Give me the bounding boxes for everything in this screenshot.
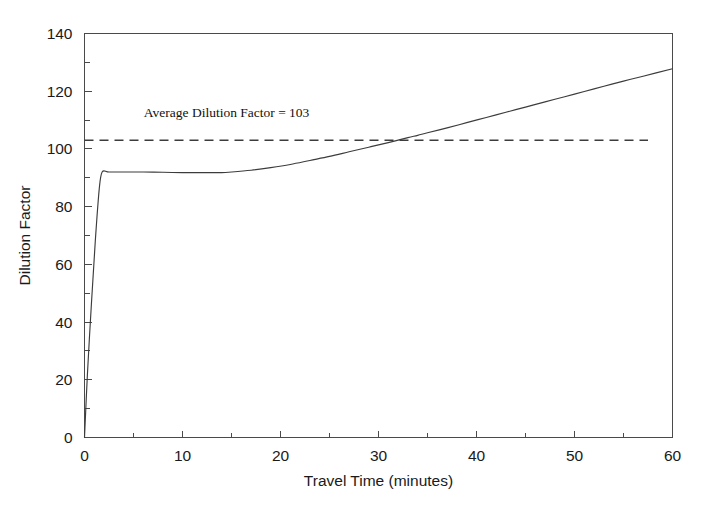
y-tick-label: 120 <box>47 83 73 100</box>
x-tick-label: 30 <box>370 447 388 464</box>
x-tick-label: 20 <box>272 447 290 464</box>
y-tick-label: 0 <box>64 429 73 446</box>
y-tick-label: 60 <box>55 256 73 273</box>
x-tick-label: 0 <box>80 447 89 464</box>
x-axis-title: Travel Time (minutes) <box>304 472 453 489</box>
x-tick-label: 60 <box>664 447 682 464</box>
y-tick-label: 20 <box>55 371 73 388</box>
x-tick-label: 10 <box>174 447 192 464</box>
y-tick-label: 40 <box>55 314 73 331</box>
y-tick-label: 80 <box>55 198 73 215</box>
y-tick-label: 140 <box>47 25 73 42</box>
y-axis-title: Dilution Factor <box>16 186 33 286</box>
x-tick-label: 40 <box>468 447 486 464</box>
chart-figure: 0102030405060 020406080100120140 Average… <box>0 0 707 508</box>
average-dilution-annotation: Average Dilution Factor = 103 <box>144 105 310 120</box>
dilution-factor-line-chart: 0102030405060 020406080100120140 Average… <box>0 0 707 508</box>
chart-annotations: Average Dilution Factor = 103 <box>144 105 310 120</box>
y-tick-label: 100 <box>47 140 73 157</box>
x-tick-label: 50 <box>566 447 584 464</box>
chart-background <box>0 0 707 508</box>
